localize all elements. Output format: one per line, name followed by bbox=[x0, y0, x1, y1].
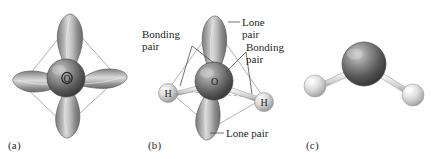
leader-bonding-pair-right-a bbox=[226, 52, 246, 72]
label-bonding-pair-left-line2: pair bbox=[142, 40, 159, 52]
oxygen-atom-label: O bbox=[63, 73, 70, 84]
panel-b-caption: (b) bbox=[148, 139, 161, 151]
panel-a: O (a) bbox=[0, 0, 140, 159]
oxygen-atom-label: O bbox=[211, 76, 218, 87]
panel-b-svg: O H H bbox=[140, 0, 298, 159]
figure-water-hybridization: O (a) bbox=[0, 0, 431, 159]
label-lone-pair-top-line2: pair bbox=[242, 28, 259, 40]
label-bonding-pair-left-line1: Bonding bbox=[142, 28, 180, 40]
label-lone-pair-bottom: Lone pair bbox=[226, 127, 269, 139]
label-lone-pair-top-line1: Lone bbox=[242, 16, 265, 28]
panel-c: (c) bbox=[298, 0, 431, 159]
label-bonding-pair-right-line1: Bonding bbox=[246, 41, 284, 53]
hydrogen-atom-left bbox=[304, 75, 326, 97]
panel-a-caption: (a) bbox=[8, 139, 21, 151]
hydrogen-left-label: H bbox=[164, 88, 171, 99]
panel-b-graphic: O H H bbox=[140, 0, 298, 159]
panel-b: O H H bbox=[140, 0, 298, 159]
oxygen-atom-sphere bbox=[342, 42, 386, 86]
hydrogen-atom-right bbox=[402, 84, 424, 106]
leader-bonding-pair-left-b bbox=[180, 46, 192, 86]
panel-c-caption: (c) bbox=[306, 139, 319, 151]
label-bonding-pair-right-line2: pair bbox=[246, 53, 263, 65]
panel-a-graphic: O bbox=[0, 0, 140, 159]
panel-c-graphic bbox=[298, 0, 431, 159]
panel-c-svg bbox=[298, 0, 431, 159]
panel-a-svg: O bbox=[0, 0, 140, 159]
hydrogen-right-label: H bbox=[260, 97, 267, 108]
